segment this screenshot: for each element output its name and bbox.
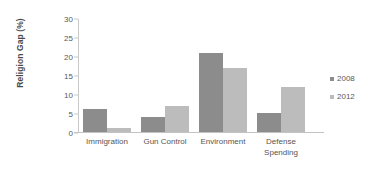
plot-area: 051015202530 [78,19,310,133]
x-axis-label: Environment [194,137,252,158]
x-axis-label-line: Gun Control [143,137,186,146]
y-tick-label: 20 [64,52,73,61]
x-axis-label: Immigration [78,137,136,158]
bar-2012 [223,68,247,132]
bar-2008 [257,113,281,132]
x-axis-label: DefenseSpending [252,137,310,158]
y-tick-label: 30 [64,15,73,24]
legend-item-2012[interactable]: 2012 [330,92,355,101]
legend-swatch-icon [330,77,334,81]
bar-group [78,19,136,132]
y-tick-label: 5 [69,110,73,119]
legend-label: 2008 [337,74,355,83]
x-axis-label-line: Environment [201,137,246,146]
x-axis-label-line: Defense [266,137,296,146]
legend-label: 2012 [337,92,355,101]
bar-group [194,19,252,132]
bar-chart: Religion Gap (%) 051015202530 Immigratio… [0,0,372,179]
y-tick-label: 15 [64,72,73,81]
bar-2008 [199,53,223,132]
chart-legend: 20082012 [330,74,355,101]
y-tick-label: 10 [64,90,73,99]
bar-2012 [281,87,305,132]
x-axis-label-line: Spending [252,148,310,159]
x-axis-line [74,132,324,133]
x-axis-label: Gun Control [136,137,194,158]
bar-group [252,19,310,132]
legend-item-2008[interactable]: 2008 [330,74,355,83]
bar-2012 [165,106,189,132]
x-axis-category-labels: ImmigrationGun ControlEnvironmentDefense… [78,137,310,158]
bar-2008 [141,117,165,132]
y-tick-label: 0 [69,129,73,138]
x-axis-label-line: Immigration [86,137,128,146]
bar-2008 [83,109,107,132]
bars-layer [78,19,310,132]
legend-swatch-icon [330,95,334,99]
y-axis-title: Religion Gap (%) [15,3,25,103]
bar-group [136,19,194,132]
y-tick-label: 25 [64,33,73,42]
